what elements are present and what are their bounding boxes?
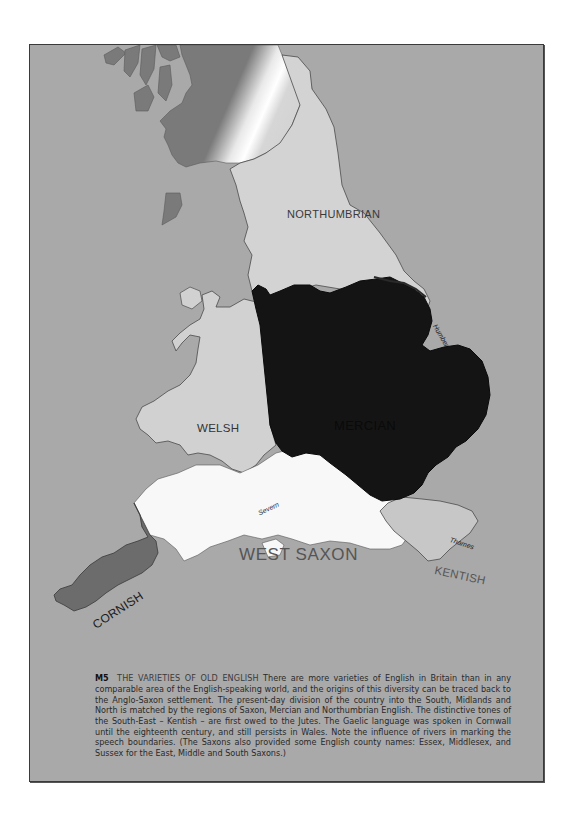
label-northumbrian: NORTHUMBRIAN: [287, 208, 380, 220]
kentish-region: [380, 497, 478, 561]
figure-caption: M5 THE VARIETIES OF OLD ENGLISH There ar…: [95, 673, 511, 759]
figure-code: M5: [95, 673, 109, 683]
figure-caption-text: There are more varieties of English in B…: [95, 673, 511, 758]
anglesey: [180, 287, 202, 309]
map-figure-frame: NORTHUMBRIAN MERCIAN WELSH WEST SAXON CO…: [29, 44, 544, 782]
welsh-region: [136, 291, 276, 473]
label-mercian: MERCIAN: [334, 418, 396, 433]
label-west-saxon: WEST SAXON: [239, 545, 358, 565]
figure-title: THE VARIETIES OF OLD ENGLISH: [117, 673, 259, 683]
label-welsh: WELSH: [197, 422, 239, 434]
